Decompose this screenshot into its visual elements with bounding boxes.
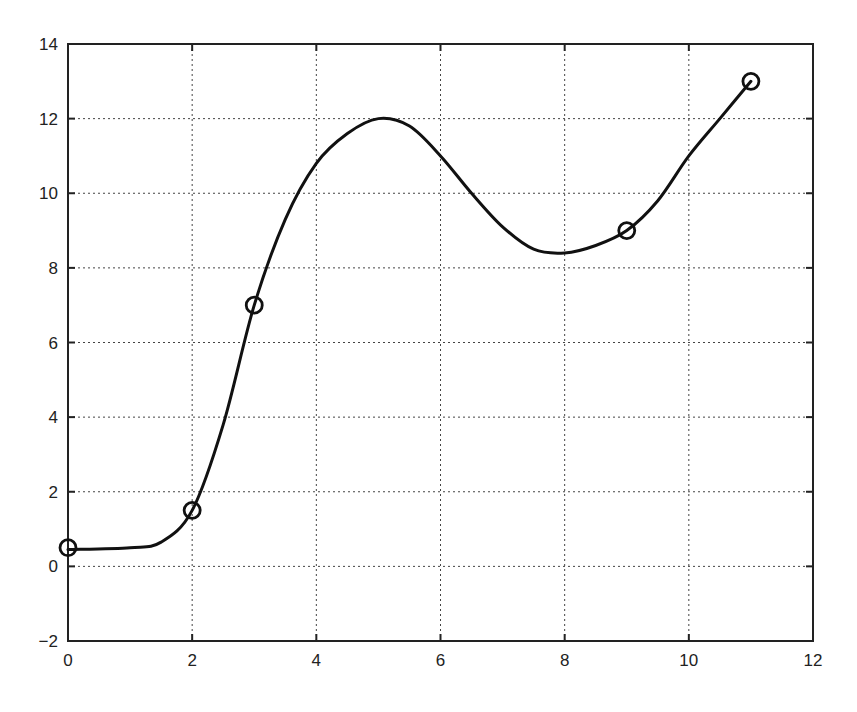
y-tick-label: 4 (49, 408, 58, 427)
interpolated-curve (68, 81, 751, 549)
y-tick-label: 10 (39, 184, 58, 203)
y-axis-tick-labels: −202468101214 (39, 35, 58, 651)
y-tick-label: 6 (49, 334, 58, 353)
y-tick-label: −2 (39, 632, 58, 651)
x-axis-tick-labels: 024681012 (63, 651, 822, 670)
y-tick-label: 0 (49, 557, 58, 576)
data-point-markers (60, 73, 759, 555)
y-tick-label: 12 (39, 110, 58, 129)
y-tick-label: 14 (39, 35, 58, 54)
x-tick-label: 8 (560, 651, 569, 670)
x-tick-label: 4 (312, 651, 321, 670)
y-tick-label: 8 (49, 259, 58, 278)
y-tick-label: 2 (49, 483, 58, 502)
x-tick-label: 0 (63, 651, 72, 670)
x-tick-label: 12 (804, 651, 823, 670)
x-tick-label: 10 (679, 651, 698, 670)
grid-lines (68, 44, 813, 641)
x-tick-label: 2 (187, 651, 196, 670)
x-tick-label: 6 (436, 651, 445, 670)
line-chart: 024681012 −202468101214 (0, 0, 857, 712)
